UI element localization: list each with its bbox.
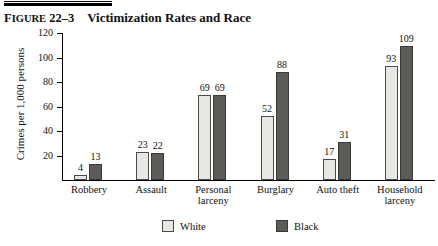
caption-double-rule [4, 1, 112, 6]
y-tick-label-60: 60 [29, 102, 53, 112]
bar-value-label: 88 [277, 59, 287, 70]
bar-pair: 413 [74, 28, 102, 180]
figure-caption: FIGURE 22–3Victimization Rates and Race [4, 8, 251, 26]
bar-pair: 93109 [385, 28, 413, 180]
bar-group: 5288Burglary [249, 28, 311, 180]
bar-value-label: 109 [399, 33, 414, 44]
bar-value-label: 93 [386, 53, 396, 64]
x-axis-category-label: Burglary [257, 184, 294, 195]
bar-white[interactable]: 69 [198, 95, 211, 180]
y-tick-label-80: 80 [29, 77, 53, 87]
bar-black[interactable]: 88 [276, 72, 289, 180]
bar-value-label: 4 [78, 162, 83, 173]
bar-pair: 5288 [261, 28, 289, 180]
bar-value-label: 13 [91, 151, 101, 162]
y-tick-label-40: 40 [29, 126, 53, 136]
y-tick-label-120: 120 [29, 28, 53, 38]
white-swatch-icon [162, 220, 174, 232]
figure-container: FIGURE 22–3Victimization Rates and Race … [0, 0, 438, 246]
bar-group: 1731Auto theft [311, 28, 373, 180]
bar-white[interactable]: 4 [74, 175, 87, 180]
bar-black[interactable]: 22 [151, 153, 164, 180]
legend-label-black: Black [294, 221, 319, 232]
y-axis-title: Crimes per 1,000 persons [14, 39, 26, 169]
chart-legend: White Black [0, 218, 438, 238]
bar-group: 93109Householdlarceny [373, 28, 435, 180]
bar-value-label: 22 [153, 140, 163, 151]
legend-item-white[interactable]: White [162, 220, 206, 232]
legend-item-black[interactable]: Black [276, 220, 319, 232]
x-axis-category-label: Auto theft [316, 184, 359, 195]
caption-rule-thin [4, 1, 112, 2]
x-axis-category-label: Robbery [71, 184, 107, 195]
x-axis-line [62, 180, 435, 181]
bar-pair: 6969 [198, 28, 226, 180]
bar-black[interactable]: 31 [338, 142, 351, 180]
bar-value-label: 69 [215, 82, 225, 93]
figure-title: Victimization Rates and Race [87, 10, 251, 25]
bar-white[interactable]: 23 [136, 152, 149, 180]
bar-white[interactable]: 52 [261, 116, 274, 180]
bar-group: 413Robbery [62, 28, 124, 180]
bar-groups: 413Robbery2322Assault6969Personallarceny… [62, 28, 435, 180]
caption-rule-thick [4, 3, 112, 6]
y-tick-label-20: 20 [29, 151, 53, 161]
bar-black[interactable]: 109 [400, 46, 413, 180]
x-axis-category-label: Personallarceny [195, 184, 231, 206]
bar-value-label: 52 [262, 103, 272, 114]
bar-pair: 2322 [136, 28, 164, 180]
x-axis-category-label: Householdlarceny [377, 184, 423, 206]
bar-value-label: 31 [339, 129, 349, 140]
bar-group: 2322Assault [124, 28, 186, 180]
figure-number-value: 22–3 [49, 11, 74, 25]
bar-black[interactable]: 13 [89, 164, 102, 180]
y-tick-label-100: 100 [29, 53, 53, 63]
bar-white[interactable]: 93 [385, 66, 398, 180]
bar-pair: 1731 [323, 28, 351, 180]
figure-number-smallcaps: IGURE [12, 13, 46, 24]
figure-number: FIGURE 22–3 [4, 11, 74, 25]
black-swatch-icon [276, 220, 288, 232]
x-axis-category-label: Assault [135, 184, 167, 195]
bar-white[interactable]: 17 [323, 159, 336, 180]
bar-value-label: 23 [138, 139, 148, 150]
legend-label-white: White [180, 221, 206, 232]
bar-value-label: 17 [324, 146, 334, 157]
bar-group: 6969Personallarceny [186, 28, 248, 180]
bar-black[interactable]: 69 [213, 95, 226, 180]
plot-area: Crimes per 1,000 persons 20406080100120 … [0, 28, 438, 213]
bar-value-label: 69 [200, 82, 210, 93]
